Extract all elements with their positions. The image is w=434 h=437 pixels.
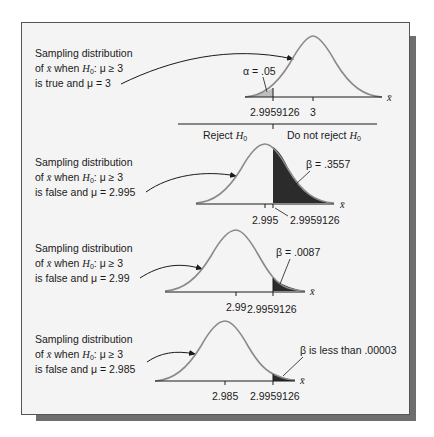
beta-leader-4 [283, 357, 303, 376]
panel3-line1: Sampling distribution [35, 242, 133, 254]
beta-label-3: β = .0087 [276, 246, 320, 258]
panel1-line1: Sampling distribution [35, 47, 133, 59]
alpha-region [245, 88, 273, 97]
panel4-line1: Sampling distribution [35, 333, 133, 345]
reject-label: Reject H0 [203, 129, 247, 142]
axis-label-2: x̄ [339, 199, 345, 210]
panel2-line2: of x̄ when H0: μ ≥ 3 [35, 171, 123, 184]
panel-1: Sampling distribution of x̄ when H0: μ ≥… [35, 36, 392, 142]
tick-label-critical-2: 2.9959126 [290, 214, 340, 226]
curve-3 [165, 230, 305, 291]
panel2-line1: Sampling distribution [35, 156, 133, 168]
panel1-line2: of x̄ when H0: μ ≥ 3 [35, 62, 123, 75]
tick-label-mean-1: 3 [310, 106, 316, 118]
pointer-arrow-4 [147, 352, 195, 362]
beta-leader-3 [280, 259, 290, 284]
panel-2: Sampling distribution of x̄ when H0: μ ≥… [35, 144, 350, 226]
panel3-line3: is false and μ = 2.99 [35, 272, 130, 284]
axis-label-4: x̄ [299, 375, 305, 386]
axis-label-3: x̄ [309, 286, 315, 297]
curve-4 [155, 321, 295, 381]
beta-label-2: β = .3557 [306, 158, 350, 170]
panel4-line2: of x̄ when H0: μ ≥ 3 [35, 348, 123, 361]
panel2-line3: is false and μ = 2.995 [35, 186, 135, 198]
panel3-line2: of x̄ when H0: μ ≥ 3 [35, 257, 123, 270]
panel4-line3: is false and μ = 2.985 [35, 363, 135, 375]
beta-label-4: β is less than .00003 [300, 344, 397, 356]
panel-4: Sampling distribution of x̄ when H0: μ ≥… [35, 321, 397, 402]
tick-label-mean-4: 2.985 [212, 390, 238, 402]
tick-label-critical-1: 2.9959126 [250, 106, 300, 118]
tick-label-critical-4: 2.9959126 [250, 390, 300, 402]
alpha-label: α = .05 [243, 65, 276, 77]
axis-label-1: x̄ [386, 92, 392, 103]
alpha-leader [263, 77, 267, 92]
panel-3: Sampling distribution of x̄ when H0: μ ≥… [35, 230, 320, 315]
pointer-arrow-2 [146, 174, 236, 192]
pointer-arrow-3 [140, 265, 202, 278]
tick-label-critical-3: 2.9959126 [247, 303, 297, 315]
tick-label-mean-3: 2.99 [226, 301, 247, 313]
beta-leader-2 [295, 171, 310, 185]
beta-region-2 [273, 147, 334, 203]
tick-label-mean-2: 2.995 [252, 214, 278, 226]
do-not-reject-label: Do not reject H0 [287, 129, 361, 142]
panel1-line3: is true and μ = 3 [35, 77, 111, 89]
power-diagram: Sampling distribution of x̄ when H0: μ ≥… [0, 0, 434, 437]
